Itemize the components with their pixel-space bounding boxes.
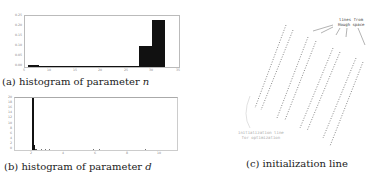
caption-b: (b) histogram of parameter d	[4, 161, 152, 172]
x-tick-label: 15	[69, 68, 81, 72]
y-tick-label: 8	[0, 126, 12, 130]
caption-a-text: (a) histogram of parameter	[2, 76, 143, 87]
histogram-n-bar	[126, 66, 139, 67]
y-tick-label: 0	[0, 146, 12, 150]
y-tick-label: 0.15	[8, 33, 22, 37]
x-tick-label: 5	[18, 68, 30, 72]
y-tick-label: 0.00	[8, 63, 22, 67]
histogram-d-bar	[32, 98, 34, 150]
y-tick-label: 16	[0, 105, 12, 109]
x-tick-label: 30	[145, 68, 157, 72]
histogram-d-panel: 20 18 16 14 12 10 8 6 4 2 0 2 4 6 8 10 (…	[0, 95, 190, 187]
histogram-d-bar	[145, 149, 146, 150]
caption-a: (a) histogram of parameter n	[2, 76, 149, 87]
caption-a-var: n	[143, 76, 149, 87]
annotation-arrows	[313, 25, 365, 45]
caption-c: (c) initialization line	[246, 158, 348, 169]
x-tick-label: 6	[89, 151, 101, 155]
initialization-curve	[246, 96, 250, 128]
y-tick-label: 12	[0, 115, 12, 119]
x-tick-label: 25	[120, 68, 132, 72]
annotation-initialization-line: initialization line for optimization	[238, 130, 284, 140]
x-tick-label: 2	[25, 151, 37, 155]
histogram-n-bar	[75, 66, 101, 68]
x-tick-label: 10	[153, 151, 165, 155]
y-tick-label: 0.05	[8, 53, 22, 57]
histogram-d-bar	[99, 149, 100, 150]
histogram-d-bar	[35, 149, 37, 151]
histogram-n-plot-area	[24, 15, 180, 68]
caption-b-text: (b) histogram of parameter	[4, 161, 145, 172]
x-tick-label: 8	[121, 151, 133, 155]
caption-b-var: d	[145, 161, 151, 172]
y-tick-label: 0.10	[8, 43, 22, 47]
histogram-n-bar	[152, 20, 165, 67]
annotation-hough-line2: Hough space	[338, 22, 365, 27]
y-tick-label: 18	[0, 100, 12, 104]
histogram-n-panel: 0.25 0.20 0.15 0.10 0.05 0.00 5 10 15 20…	[0, 0, 190, 90]
histogram-n-bar	[39, 66, 75, 67]
histogram-n-bar	[101, 66, 126, 67]
y-tick-label: 2	[0, 141, 12, 145]
histogram-n-bar	[28, 65, 39, 67]
y-tick-label: 0.20	[8, 23, 22, 27]
histogram-d-plot-area	[14, 97, 178, 151]
annotation-hough-lines: lines from Hough space	[338, 17, 365, 27]
y-tick-label: 14	[0, 110, 12, 114]
x-tick-label: 10	[43, 68, 55, 72]
histogram-d-bar	[49, 149, 50, 150]
y-tick-label: 6	[0, 131, 12, 135]
initialization-line-panel: lines from Hough space initialization li…	[190, 0, 373, 187]
histogram-d-bar	[45, 149, 46, 150]
y-tick-label: 4	[0, 136, 12, 140]
histogram-d-bar	[41, 149, 42, 150]
x-tick-label: 35	[172, 68, 184, 72]
y-tick-label: 10	[0, 121, 12, 125]
annotation-init-line2: for optimization	[238, 135, 284, 140]
y-tick-label: 20	[0, 95, 12, 99]
y-tick-label: 0.25	[8, 13, 22, 17]
x-tick-label: 20	[94, 68, 106, 72]
x-tick-label: 4	[57, 151, 69, 155]
histogram-d-bar	[93, 149, 94, 150]
histogram-n-bar	[139, 46, 152, 67]
